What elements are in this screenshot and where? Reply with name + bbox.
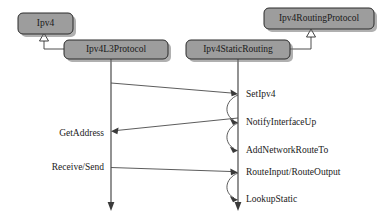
- class-box-ipv4l3protocol[interactable]: Ipv4L3Protocol: [64, 40, 171, 62]
- message-receive-send-arrowhead: [230, 169, 238, 176]
- class-box-ipv4routingprotocol[interactable]: Ipv4RoutingProtocol: [264, 8, 377, 32]
- message-notifyinterfaceup-loop: [227, 95, 238, 121]
- class-box-ipv4[interactable]: Ipv4: [18, 13, 76, 37]
- class-box-ipv4staticrouting-label: Ipv4StaticRouting: [203, 44, 273, 54]
- message-receive-send-line: [111, 168, 234, 172]
- message-getaddress-label: GetAddress: [59, 128, 104, 138]
- generalization-elbow-right: [290, 37, 311, 49]
- lifelines: [108, 59, 242, 211]
- message-routeinput-routeoutput-label: RouteInput/RouteOutput: [246, 167, 341, 177]
- diagram-canvas: Ipv4 Ipv4RoutingProtocol Ipv4L3Protocol …: [0, 0, 382, 224]
- message-getaddress-line: [116, 118, 239, 131]
- message-addnetworkrouteto[interactable]: AddNetworkRouteTo: [227, 123, 328, 155]
- message-addnetworkrouteto-arrowhead: [230, 147, 238, 153]
- message-setipv4[interactable]: SetIpv4: [111, 83, 276, 99]
- message-getaddress-arrowhead: [111, 128, 119, 135]
- lifeline-end-arrow-left: [108, 202, 115, 211]
- message-lookupstatic-arrowhead: [230, 196, 238, 202]
- message-setipv4-label: SetIpv4: [246, 89, 276, 99]
- message-receive-send[interactable]: Receive/Send RouteInput/RouteOutput: [52, 162, 341, 177]
- message-addnetworkrouteto-label: AddNetworkRouteTo: [246, 145, 328, 155]
- message-notifyinterfaceup[interactable]: NotifyInterfaceUp: [227, 95, 316, 127]
- message-receive-send-label: Receive/Send: [52, 162, 104, 172]
- message-addnetworkrouteto-loop: [227, 123, 238, 149]
- uml-sequence-diagram: Ipv4 Ipv4RoutingProtocol Ipv4L3Protocol …: [0, 0, 382, 224]
- message-lookupstatic-loop: [227, 173, 238, 198]
- lifeline-end-arrow-right: [235, 202, 242, 211]
- class-box-ipv4l3protocol-label: Ipv4L3Protocol: [86, 44, 147, 54]
- class-box-ipv4routingprotocol-label: Ipv4RoutingProtocol: [279, 13, 360, 23]
- message-getaddress[interactable]: GetAddress: [59, 118, 238, 138]
- generalization-elbow-left: [44, 41, 64, 49]
- class-box-ipv4staticrouting[interactable]: Ipv4StaticRouting: [186, 40, 293, 62]
- message-setipv4-line: [111, 83, 234, 93]
- message-notifyinterfaceup-label: NotifyInterfaceUp: [246, 117, 316, 127]
- message-lookupstatic-label: LookupStatic: [246, 194, 297, 204]
- class-box-ipv4-label: Ipv4: [37, 18, 55, 28]
